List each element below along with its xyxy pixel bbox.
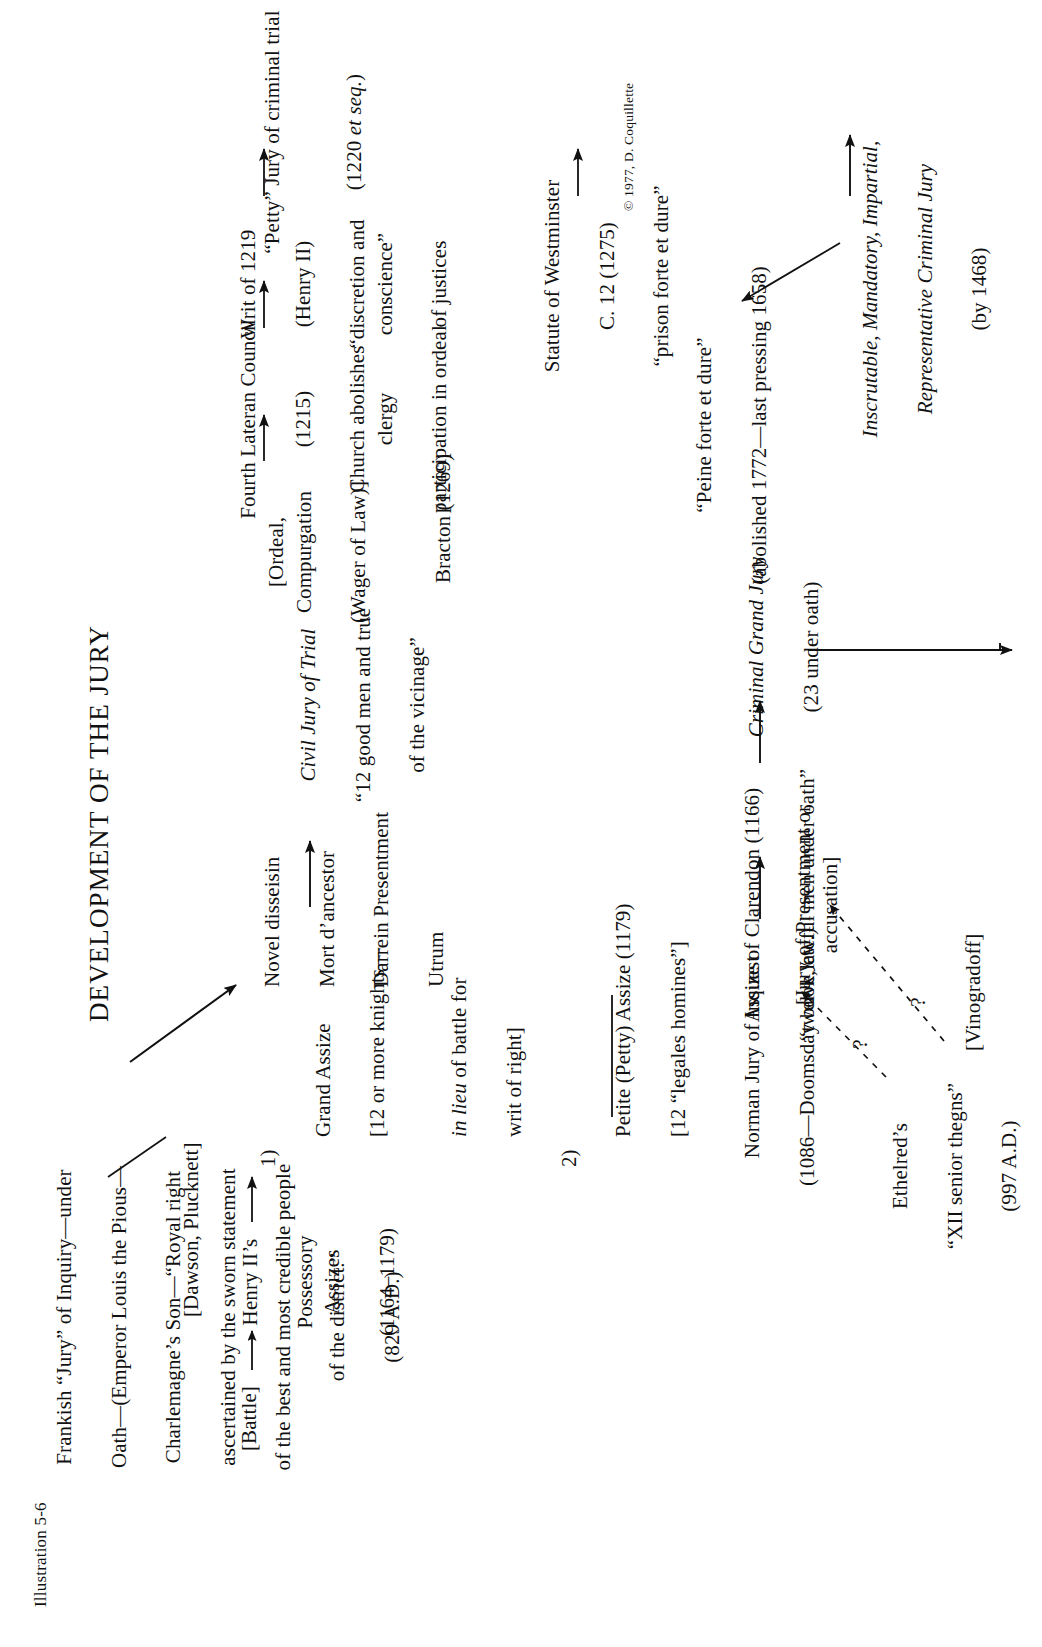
criminal-jury-line-1: Inscrutable, Mandatory, Impartial,	[857, 89, 884, 489]
assize-item-1-title: Grand Assize	[311, 1023, 335, 1137]
petty-line-1: “Petty” Jury of criminal trial	[259, 0, 286, 267]
assize-item-1-number: 1)	[255, 1149, 282, 1167]
criminal-jury-line-2: Representative Criminal Jury	[912, 89, 939, 489]
assize-item-2-note-1: [12 “legales homines”]	[665, 867, 692, 1167]
uncertainty-marker-1: ?	[846, 1039, 875, 1049]
node-vinogradoff: [Vinogradoff]	[960, 934, 987, 1051]
writ-darrein-presentment: Darrein Presentment	[368, 812, 395, 987]
node-possessory-writs: Novel disseisin Mort d’ancestor Darrein …	[232, 812, 478, 987]
node-peine-forte-et-dure: “Peine forte et dure” (abolished 1772—la…	[664, 255, 800, 595]
node-henryii-line-2: Possessory Assizes	[292, 1217, 347, 1347]
criminal-jury-line-3: (by 1468)	[966, 89, 993, 489]
writ-mort-dancestor: Mort d’ancestor	[314, 812, 341, 987]
petty-line-2: (1220 et seq.)	[314, 0, 369, 267]
westminster-line-1: Statute of Westminster	[539, 161, 566, 391]
ethelred-line-2: “XII senior thegns”	[942, 1061, 969, 1271]
node-frankish-line-1: Frankish “Jury” of Inquiry—under	[51, 1047, 78, 1587]
node-jury-of-presentment: [Jury of Presentment or accusation]	[790, 755, 845, 1055]
petty-year-open: (1220	[342, 135, 366, 190]
uncertainty-marker-2: ?	[904, 997, 933, 1007]
node-henryii-assizes: Henry II’s Possessory Assizes (1164–1179…	[210, 1217, 428, 1347]
writ-utrum: Utrum	[423, 812, 450, 987]
writ1219-line-4: of justices	[426, 179, 453, 389]
petty-et-seq: et seq.	[342, 81, 366, 135]
assize-in-lieu-italic: in lieu	[447, 1083, 471, 1137]
rotated-page-wrapper: Illustration 5-6 DEVELOPMENT OF THE JURY…	[0, 0, 1042, 1647]
ethelred-line-3: (997 A.D.)	[996, 1061, 1023, 1271]
westminster-line-2: C. 12 (1275)	[594, 161, 621, 391]
assize-item-1-note-3: writ of right]	[501, 867, 528, 1167]
clarendon-line-1: Assize of Clarendon (1166)	[739, 755, 766, 1055]
diagram-page: Illustration 5-6 DEVELOPMENT OF THE JURY…	[0, 0, 1042, 1647]
node-frankish-line-2: Oath—(Emperor Louis the Pious—	[106, 1047, 133, 1587]
assize-item-2-title: Petite (Petty) Assize (1179)	[611, 903, 635, 1137]
node-frankish-line-3: Charlemagne’s Son—“Royal right	[160, 1047, 187, 1587]
grand-jury-line-2: (23 under oath)	[798, 547, 825, 747]
node-battle: [Battle]	[236, 1386, 263, 1451]
node-criminal-jury-1468: Inscrutable, Mandatory, Impartial, Repre…	[830, 89, 1021, 489]
civil-jury-line-3: of the vicinage”	[404, 575, 431, 835]
node-henryii-line-1: Henry II’s	[237, 1217, 264, 1347]
node-ethelred: Ethelred’s “XII senior thegns” (997 A.D.…	[860, 1061, 1042, 1271]
ethelred-line-1: Ethelred’s	[887, 1061, 914, 1271]
assize-item-2-number: 2)	[556, 1149, 583, 1167]
petty-year-close: )	[342, 74, 366, 81]
node-petty-jury-criminal-trial: “Petty” Jury of criminal trial (1220 et …	[232, 0, 396, 267]
peine-line-1: “Peine forte et dure”	[691, 255, 718, 595]
node-dawson-plucknett: [Dawson, Plucknett]	[178, 1142, 205, 1317]
peine-line-2: (abolished 1772—last pressing 1658)	[746, 255, 773, 595]
writ-novel-disseisin: Novel disseisin	[259, 812, 286, 987]
assize-in-lieu-rest: of battle for	[447, 977, 471, 1083]
node-bracton: Bracton (1269)	[430, 454, 457, 583]
node-henryii-line-3: (1164–1179)	[374, 1217, 401, 1347]
